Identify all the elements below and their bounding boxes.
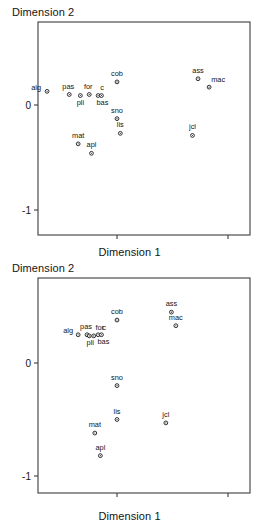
point-label: mat bbox=[72, 131, 84, 140]
y-tick-label: -1 bbox=[22, 205, 31, 216]
point-label: pas bbox=[80, 322, 92, 331]
data-point: apl bbox=[87, 140, 97, 155]
plot-frame bbox=[38, 278, 250, 493]
plot-area-bottom: 010-1cobassmacalgpaspliforcbassnolisjclm… bbox=[0, 255, 259, 500]
point-center-dot-icon bbox=[116, 385, 117, 386]
data-point: alg bbox=[31, 83, 49, 93]
x-tick-label: 1 bbox=[225, 499, 231, 500]
point-center-dot-icon bbox=[116, 419, 117, 420]
point-center-dot-icon bbox=[101, 334, 102, 335]
data-point: sno bbox=[111, 373, 123, 388]
data-point: alg bbox=[63, 326, 80, 337]
point-label: mac bbox=[169, 313, 183, 322]
point-center-dot-icon bbox=[98, 95, 99, 96]
point-label: sno bbox=[111, 373, 123, 382]
scatter-figure-bottom: Dimension 2 010-1cobassmacalgpaspliforcb… bbox=[0, 255, 259, 532]
data-point: lis bbox=[114, 407, 121, 422]
point-center-dot-icon bbox=[89, 335, 90, 336]
point-label: jcl bbox=[161, 410, 169, 419]
point-label: mac bbox=[211, 75, 225, 84]
point-label: ass bbox=[192, 66, 204, 75]
point-label: ass bbox=[166, 299, 178, 308]
point-center-dot-icon bbox=[100, 455, 101, 456]
data-point: pli bbox=[77, 94, 85, 107]
point-center-dot-icon bbox=[165, 422, 166, 423]
plot-frame bbox=[38, 22, 250, 235]
point-label: apl bbox=[87, 140, 97, 149]
point-center-dot-icon bbox=[101, 95, 102, 96]
data-point: for bbox=[84, 82, 93, 97]
data-point: mat bbox=[72, 131, 84, 146]
point-center-dot-icon bbox=[197, 78, 198, 79]
point-label: pli bbox=[87, 338, 95, 347]
point-label: sno bbox=[111, 106, 123, 115]
data-point: jcl bbox=[188, 122, 196, 137]
data-point: ass bbox=[192, 66, 204, 81]
point-label: bas bbox=[97, 337, 109, 346]
point-label: bas bbox=[96, 98, 108, 107]
y-tick-label: 0 bbox=[25, 100, 31, 111]
data-point: mac bbox=[169, 313, 183, 328]
data-point: sno bbox=[111, 106, 123, 121]
point-center-dot-icon bbox=[78, 334, 79, 335]
y-tick-label: 0 bbox=[25, 358, 31, 369]
point-center-dot-icon bbox=[116, 320, 117, 321]
point-label: apl bbox=[95, 443, 105, 452]
point-label: c bbox=[102, 323, 106, 332]
point-label: c bbox=[100, 83, 104, 92]
point-label: mat bbox=[89, 420, 101, 429]
point-label: alg bbox=[63, 326, 73, 335]
point-center-dot-icon bbox=[209, 87, 210, 88]
point-label: jcl bbox=[188, 122, 196, 131]
y-tick-label: -1 bbox=[22, 471, 31, 482]
data-point: mat bbox=[89, 420, 101, 435]
point-label: lis bbox=[114, 407, 121, 416]
point-center-dot-icon bbox=[116, 118, 117, 119]
point-center-dot-icon bbox=[93, 335, 94, 336]
data-point: bas bbox=[97, 333, 109, 346]
point-center-dot-icon bbox=[116, 81, 117, 82]
data-point: lis bbox=[117, 120, 124, 135]
data-point: pas bbox=[62, 82, 74, 97]
data-point: cob bbox=[111, 307, 123, 322]
data-point: cob bbox=[111, 69, 123, 84]
point-center-dot-icon bbox=[175, 325, 176, 326]
data-point: apl bbox=[95, 443, 105, 458]
scatter-figure-top: Dimension 2 010-1algpaspliforcbascobassm… bbox=[0, 0, 259, 266]
plot-area-top: 010-1algpaspliforcbascobassmacsnolisjclm… bbox=[0, 0, 259, 240]
point-center-dot-icon bbox=[89, 94, 90, 95]
point-center-dot-icon bbox=[78, 143, 79, 144]
point-label: lis bbox=[117, 120, 124, 129]
point-label: pli bbox=[77, 98, 85, 107]
x-tick-label: 0 bbox=[114, 499, 120, 500]
point-center-dot-icon bbox=[192, 135, 193, 136]
point-center-dot-icon bbox=[47, 91, 48, 92]
point-center-dot-icon bbox=[91, 153, 92, 154]
point-center-dot-icon bbox=[69, 94, 70, 95]
point-center-dot-icon bbox=[94, 433, 95, 434]
point-center-dot-icon bbox=[98, 334, 99, 335]
point-label: cob bbox=[111, 307, 123, 316]
point-center-dot-icon bbox=[80, 95, 81, 96]
x-axis-title-bottom: Dimension 1 bbox=[0, 510, 259, 522]
point-label: pas bbox=[62, 82, 74, 91]
data-point: mac bbox=[207, 75, 225, 89]
point-center-dot-icon bbox=[120, 133, 121, 134]
data-point: jcl bbox=[161, 410, 169, 425]
point-label: for bbox=[84, 82, 93, 91]
point-label: alg bbox=[31, 83, 41, 92]
point-label: cob bbox=[111, 69, 123, 78]
